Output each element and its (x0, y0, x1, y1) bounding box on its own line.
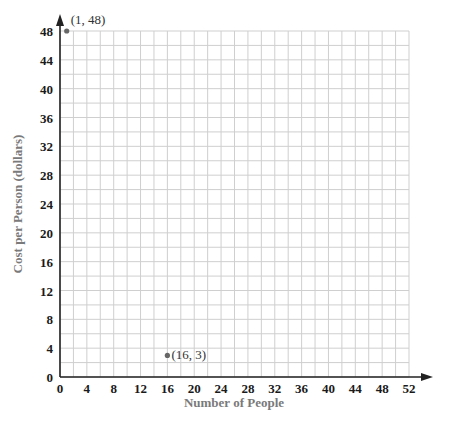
y-tick-label: 4 (47, 341, 54, 356)
y-tick-label: 44 (40, 53, 54, 68)
x-tick-label: 20 (188, 381, 201, 396)
y-tick-label: 40 (40, 82, 53, 97)
x-tick-label: 4 (84, 381, 91, 396)
x-tick-label: 28 (241, 381, 255, 396)
x-tick-label: 52 (403, 381, 416, 396)
x-tick-label: 24 (215, 381, 229, 396)
y-tick-label: 28 (40, 168, 54, 183)
x-tick-label: 0 (57, 381, 64, 396)
x-tick-label: 12 (134, 381, 147, 396)
x-axis-arrow-icon (421, 373, 433, 381)
grid-lines (60, 31, 409, 377)
data-points: (1, 48)(16, 3) (64, 12, 206, 362)
x-axis-label: Number of People (184, 395, 284, 410)
y-tick-label: 24 (40, 197, 54, 212)
x-tick-label: 32 (268, 381, 281, 396)
y-tick-label: 20 (40, 226, 53, 241)
x-tick-label: 48 (376, 381, 390, 396)
y-tick-label: 8 (47, 312, 54, 327)
x-tick-label: 8 (110, 381, 117, 396)
data-point-label: (1, 48) (71, 12, 106, 27)
x-tick-label: 40 (322, 381, 335, 396)
scatter-chart: 0481216202428323640444852 04812162024283… (0, 0, 451, 431)
data-point (64, 28, 69, 33)
y-tick-label: 36 (40, 111, 54, 126)
y-axis-arrow-icon (56, 14, 64, 26)
axes (56, 14, 433, 381)
y-tick-label: 48 (40, 24, 54, 39)
x-tick-label: 36 (295, 381, 309, 396)
x-tick-label: 44 (349, 381, 363, 396)
y-tick-label: 16 (40, 255, 54, 270)
y-axis-ticks: 04812162024283236404448 (40, 24, 54, 385)
x-tick-label: 16 (161, 381, 175, 396)
data-point (165, 353, 170, 358)
y-tick-label: 0 (47, 370, 54, 385)
data-point-label: (16, 3) (171, 347, 206, 362)
y-axis-label: Cost per Person (dollars) (10, 135, 25, 274)
x-axis-ticks: 0481216202428323640444852 (57, 381, 416, 396)
y-tick-label: 32 (40, 139, 53, 154)
y-tick-label: 12 (40, 284, 53, 299)
